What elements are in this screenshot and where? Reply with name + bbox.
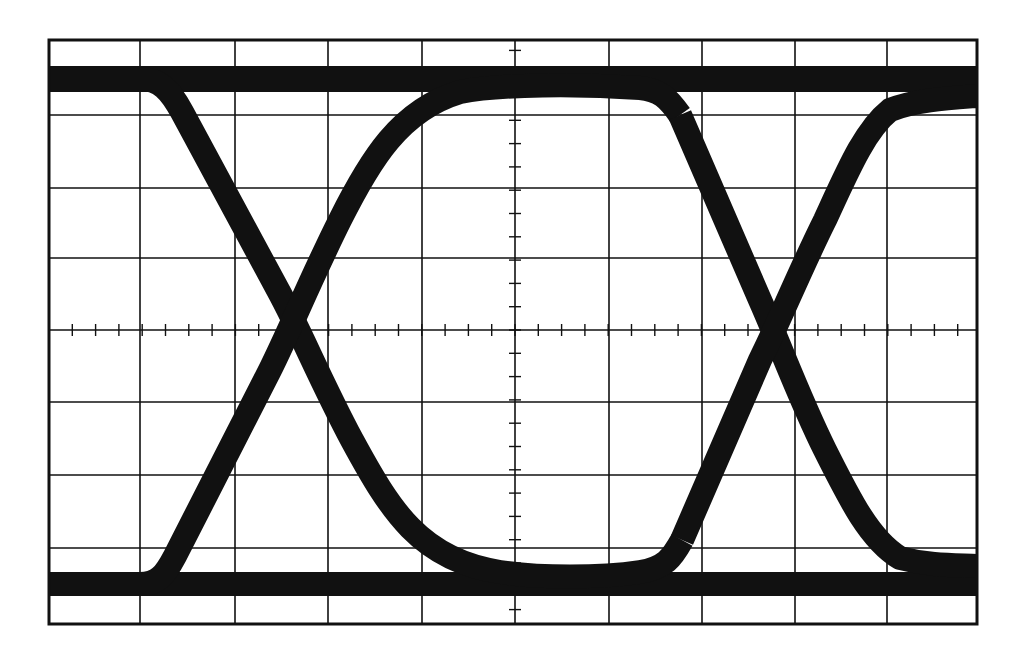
eye-diagram (0, 0, 1022, 655)
falling-edge-1 (140, 79, 682, 577)
eye-traces (140, 79, 977, 584)
falling-edge-2 (680, 115, 977, 566)
